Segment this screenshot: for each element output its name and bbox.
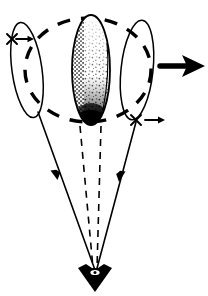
left-short-arrow <box>16 36 34 42</box>
technical-diagram-canvas <box>0 0 208 296</box>
center-dashed-line-right <box>97 126 101 268</box>
right-convergence-line <box>96 122 136 272</box>
center-stipple-ellipse <box>70 14 112 134</box>
right-short-arrow <box>145 117 165 124</box>
figure-root: Converging cone projection with three tr… <box>0 0 208 296</box>
bold-reference-arrow <box>160 55 205 77</box>
apex-marker <box>78 264 112 292</box>
